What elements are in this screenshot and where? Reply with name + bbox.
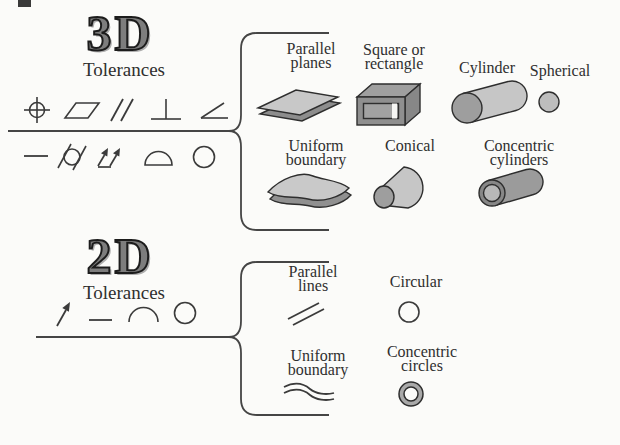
concentric-circles-shape <box>399 382 423 406</box>
wavy-surface-shape <box>268 174 351 207</box>
runout-arrow-icon <box>57 302 70 326</box>
label-uniform-boundary-2d: Uniform boundary <box>288 349 348 377</box>
circularity-icon <box>194 147 215 168</box>
figure: 3D Tolerances 2D Tolerances Parallel pla… <box>0 0 620 445</box>
label-cylinder: Cylinder <box>459 61 515 75</box>
concentric-cylinders-shape <box>479 169 543 206</box>
3d-title: 3D <box>86 8 153 58</box>
label-spherical: Spherical <box>530 64 590 78</box>
cylinder-shape <box>452 81 527 123</box>
2d-subtitle: Tolerances <box>83 283 165 304</box>
angularity-icon <box>201 103 228 118</box>
circle-shape <box>399 302 419 322</box>
circularity-2d-icon <box>175 303 196 324</box>
label-concentric-circles: Concentric circles <box>387 345 457 373</box>
cone-shape <box>374 167 423 208</box>
profile-of-surface-icon <box>145 152 172 166</box>
flatness-icon <box>65 103 99 118</box>
3d-subtitle: Tolerances <box>83 60 165 81</box>
sphere-shape <box>539 92 559 112</box>
label-uniform-boundary-3d: Uniform boundary <box>286 139 346 167</box>
scan-artifact <box>18 0 31 7</box>
label-square-rectangle: Square or rectangle <box>363 43 425 71</box>
hollow-box-shape <box>357 84 420 125</box>
position-icon <box>24 97 50 123</box>
perpendicularity-icon <box>151 99 181 119</box>
2d-title: 2D <box>86 231 153 281</box>
label-conical: Conical <box>385 139 435 153</box>
label-circular: Circular <box>390 275 442 289</box>
cylindricity-icon <box>58 144 86 170</box>
parallelism-icon <box>111 99 133 121</box>
label-parallel-lines: Parallel lines <box>289 265 338 293</box>
label-parallel-planes: Parallel planes <box>287 42 336 70</box>
total-runout-icon <box>98 148 120 167</box>
parallel-planes-shape <box>258 90 340 121</box>
profile-of-line-icon <box>129 308 158 323</box>
parallel-lines-shape <box>288 303 324 325</box>
label-concentric-cylinders: Concentric cylinders <box>484 139 554 167</box>
wavy-lines-shape <box>284 384 334 400</box>
